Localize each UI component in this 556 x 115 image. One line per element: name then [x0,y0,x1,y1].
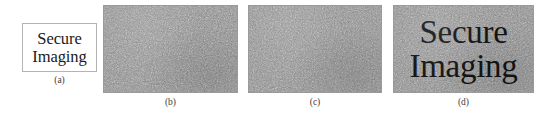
panel-a-text-line-1: Secure [37,30,81,47]
panel-b-noise-image [103,5,238,93]
panel-a-text-line-2: Imaging [32,48,86,65]
panel-c-caption: (c) [248,97,382,107]
noise-texture-overlay-icon [393,5,534,93]
panel-b-caption: (b) [103,97,238,107]
panel-d-caption: (d) [393,97,534,107]
panel-a-caption: (a) [22,75,97,85]
noise-texture-overlay-icon [103,5,238,93]
figure-panel-row: Secure Imaging (a) (b) [0,0,556,115]
panel-d-noise-image-with-text: Secure Imaging [393,5,534,93]
noise-texture-overlay-icon [248,5,382,93]
panel-c-noise-image [248,5,382,93]
panel-a-plaintext: Secure Imaging [22,23,97,72]
